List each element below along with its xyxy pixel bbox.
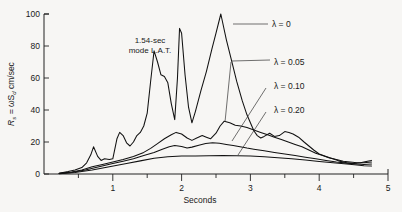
legend-label-lambda-0: λ = 0 — [272, 19, 291, 29]
mode-annotation: 1.54-sec mode L.A.T. — [129, 36, 172, 55]
legend-label-lambda-005: λ = 0.05 — [274, 57, 305, 67]
y-axis-title-eq: = — [6, 107, 16, 117]
legend-label-lambda-020: λ = 0.20 — [274, 105, 305, 115]
y-tick-label: 60 — [31, 73, 41, 83]
y-tick-label: 100 — [26, 9, 40, 19]
chart-background — [0, 0, 402, 212]
mode-annotation-line1: 1.54-sec — [135, 36, 166, 45]
y-tick-label: 80 — [31, 41, 41, 51]
mode-annotation-line2: mode L.A.T. — [129, 46, 172, 55]
x-axis-title: Seconds — [183, 195, 216, 205]
x-tick-label: 1 — [110, 183, 115, 193]
y-tick-label: 40 — [31, 105, 41, 115]
y-axis-title-units: cm/sec — [6, 61, 16, 91]
y-axis-title-omega: ωS — [6, 94, 16, 107]
legend-label-lambda-010: λ = 0.10 — [274, 81, 305, 91]
response-spectrum-chart: 100 80 60 40 20 0 1 2 3 4 5 Seconds Rs =… — [0, 0, 402, 212]
y-tick-label: 0 — [35, 169, 40, 179]
y-tick-label: 20 — [31, 137, 41, 147]
x-tick-label: 5 — [386, 183, 391, 193]
x-tick-label: 4 — [317, 183, 322, 193]
x-tick-label: 2 — [179, 183, 184, 193]
x-tick-label: 3 — [248, 183, 253, 193]
